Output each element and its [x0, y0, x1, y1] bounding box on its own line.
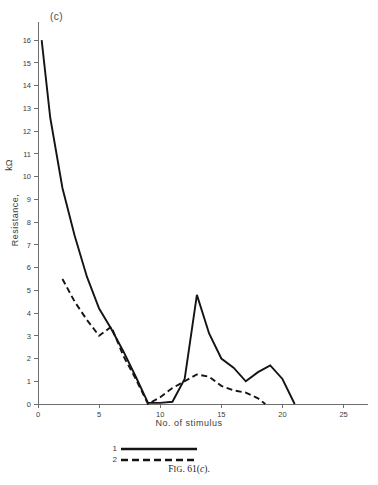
y-tick-label: 1 [27, 377, 31, 386]
y-tick-label: 7 [27, 241, 31, 250]
y-tick-label: 9 [27, 195, 31, 204]
caption-number: . 61( [183, 464, 200, 474]
y-tick-label: 14 [23, 81, 31, 90]
legend-item: 1 [108, 443, 228, 454]
data-series-group [42, 40, 295, 404]
legend-swatch-dashed [120, 455, 198, 465]
x-axis-title: No. of stimulus [0, 418, 378, 428]
legend-key-2: 2 [108, 456, 120, 464]
caption-suffix: ). [204, 464, 210, 474]
y-tick-label: 12 [23, 127, 31, 136]
y-tick-label: 8 [27, 218, 31, 227]
y-tick-label: 11 [23, 150, 31, 159]
figure-caption: FIG. 61(c). [0, 464, 378, 474]
figure-container: (c) 012345678910111213141516 0510152025 … [0, 0, 378, 485]
y-tick-label: 3 [27, 332, 31, 341]
data-series-1 [42, 40, 295, 404]
y-tick-label: 13 [23, 104, 31, 113]
data-series-2 [62, 279, 265, 404]
y-tick-label: 16 [23, 36, 31, 45]
y-tick-label: 15 [23, 59, 31, 68]
y-tick-label: 10 [23, 172, 31, 181]
y-tick-label: 2 [27, 354, 31, 363]
y-tick-label: 0 [27, 400, 31, 409]
legend-key-1: 1 [108, 445, 120, 453]
legend-swatch-solid [120, 444, 198, 454]
y-tick-label: 6 [27, 263, 31, 272]
y-axis-unit-label: kΩ [4, 135, 14, 195]
legend: 1 2 [108, 443, 228, 465]
plot-area: 012345678910111213141516 0510152025 [0, 0, 378, 420]
y-axis-ticks: 012345678910111213141516 [23, 36, 38, 409]
y-tick-label: 4 [27, 309, 31, 318]
axes [38, 22, 368, 404]
x-axis-ticks: 0510152025 [36, 404, 348, 419]
caption-smallcaps: IG [174, 465, 183, 474]
y-tick-label: 5 [27, 286, 31, 295]
